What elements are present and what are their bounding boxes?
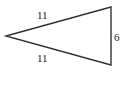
side-label-top: 11 [37,9,48,21]
side-label-right: 6 [114,31,120,43]
triangle [6,7,111,65]
triangle-diagram: 11 11 6 [0,0,122,85]
side-label-bottom: 11 [37,52,48,64]
